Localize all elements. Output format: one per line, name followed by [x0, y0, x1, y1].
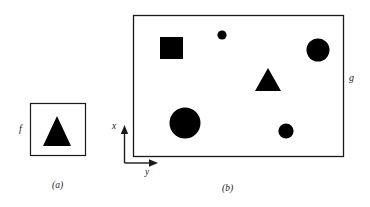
panel-b-group: [134, 16, 344, 157]
panel-b-circle-small-bottom: [278, 123, 293, 138]
caption-panel-a: (a): [52, 181, 63, 191]
figure-canvas: [0, 0, 370, 207]
axis-label-x: x: [112, 122, 116, 132]
panel-a-group: [31, 104, 86, 156]
x-axis-arrowhead: [121, 125, 128, 134]
panel-b-circle-top-right: [307, 39, 330, 62]
axis-label-y: y: [145, 168, 149, 178]
panel-b-frame: [134, 16, 344, 157]
figure-root: f g x y (a) (b): [0, 0, 370, 207]
caption-panel-b: (b): [222, 184, 233, 194]
set-label-g: g: [349, 73, 354, 83]
panel-b-circle-tiny-top: [217, 30, 226, 39]
set-label-f: f: [19, 124, 22, 134]
panel-b-square: [160, 37, 183, 59]
panel-b-circle-large-left: [170, 108, 201, 139]
y-axis-arrowhead: [149, 159, 158, 166]
